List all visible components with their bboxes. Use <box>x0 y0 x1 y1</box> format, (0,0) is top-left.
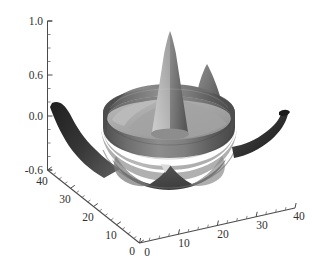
surface-plot-figure: 1.0 0.6 0.0 -0.6 <box>0 0 312 265</box>
central-spike-left-face <box>152 31 170 136</box>
x-axis: 0 10 20 30 40 <box>140 203 306 258</box>
x-tick-label-0: 0 <box>144 246 150 258</box>
x-tick-label-10: 10 <box>178 237 190 249</box>
surface-geometry <box>50 31 290 190</box>
x-tick-label-40: 40 <box>293 210 305 222</box>
central-spike-base <box>151 129 189 140</box>
y-tick-label-10: 10 <box>105 229 117 241</box>
z-axis: 1.0 0.6 0.0 -0.6 <box>25 15 53 176</box>
central-spike-right-face <box>170 31 188 136</box>
x-tick-label-30: 30 <box>256 219 268 231</box>
y-tick-label-20: 20 <box>82 211 94 223</box>
x-tick-label-20: 20 <box>217 228 229 240</box>
surface-plot-canvas: 1.0 0.6 0.0 -0.6 <box>0 0 312 265</box>
y-tick-label-0: 0 <box>129 245 135 257</box>
z-tick-label-3: 0.0 <box>29 110 44 122</box>
z-tick-label-1: 1.0 <box>29 15 44 27</box>
right-spur-tip <box>279 110 290 116</box>
y-tick-label-40: 40 <box>36 175 48 187</box>
y-tick-label-30: 30 <box>59 193 71 205</box>
z-tick-label-2: 0.6 <box>29 69 44 81</box>
right-corner-spur <box>232 113 288 159</box>
